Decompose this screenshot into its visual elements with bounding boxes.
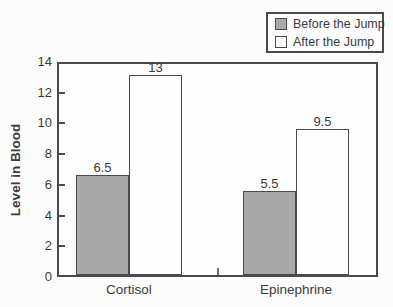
x-axis-divider-tick: [217, 268, 219, 275]
bar-after-the-jump-epinephrine: [296, 129, 349, 275]
y-tick-label-2: 2: [24, 238, 52, 254]
y-axis-tick-8: [59, 153, 65, 155]
legend-label: Before the Jump: [293, 17, 385, 31]
value-label-before-the-jump-epinephrine: 5.5: [243, 176, 296, 191]
y-axis-tick-10: [59, 122, 65, 124]
y-axis-tick-2: [59, 245, 65, 247]
bar-before-the-jump-cortisol: [76, 175, 129, 275]
legend-item-before-the-jump: Before the Jump: [275, 16, 382, 31]
x-category-label-cortisol: Cortisol: [59, 282, 199, 297]
legend-item-after-the-jump: After the Jump: [275, 34, 382, 49]
legend-swatch-before-icon: [275, 18, 287, 30]
y-tick-label-12: 12: [24, 85, 52, 101]
y-tick-label-4: 4: [24, 208, 52, 224]
y-tick-label-0: 0: [24, 269, 52, 285]
y-tick-label-14: 14: [24, 54, 52, 70]
y-axis-tick-12: [59, 92, 65, 94]
y-axis-tick-4: [59, 215, 65, 217]
legend: Before the Jump After the Jump: [266, 12, 384, 53]
y-axis-tick-6: [59, 184, 65, 186]
y-axis-title: Level in Blood: [8, 124, 23, 216]
legend-swatch-after-icon: [275, 36, 287, 48]
bar-before-the-jump-epinephrine: [243, 191, 296, 275]
value-label-after-the-jump-epinephrine: 9.5: [296, 114, 349, 129]
bar-after-the-jump-cortisol: [129, 75, 182, 275]
y-tick-label-6: 6: [24, 177, 52, 193]
x-category-label-epinephrine: Epinephrine: [226, 282, 366, 297]
value-label-after-the-jump-cortisol: 13: [129, 60, 182, 75]
y-tick-label-10: 10: [24, 115, 52, 131]
legend-label: After the Jump: [293, 35, 374, 49]
y-tick-label-8: 8: [24, 146, 52, 162]
bar-chart-figure: Level in Blood Before the Jump After the…: [0, 0, 393, 307]
value-label-before-the-jump-cortisol: 6.5: [76, 160, 129, 175]
